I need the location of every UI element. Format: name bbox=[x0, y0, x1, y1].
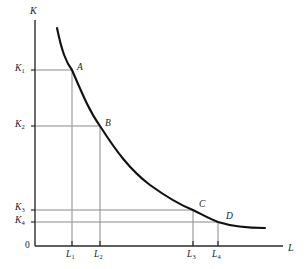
isoquant-curve bbox=[57, 28, 265, 228]
origin-label: 0 bbox=[25, 241, 30, 251]
point-label-d: D bbox=[226, 212, 233, 222]
guide-lines bbox=[35, 70, 218, 246]
point-label-b: B bbox=[105, 119, 111, 129]
chart-canvas bbox=[0, 0, 306, 269]
y-tick-label-k3: K3 bbox=[15, 203, 25, 213]
y-tick-label-k2: K2 bbox=[15, 120, 25, 130]
x-tick-label-l2: L2 bbox=[94, 250, 103, 260]
x-tick-label-l1: L1 bbox=[66, 250, 75, 260]
y-tick-label-k4: K4 bbox=[15, 216, 25, 226]
isoquant-figure: K L 0 K1 K2 K3 K4 L1 L2 L3 L4 A B C D bbox=[0, 0, 306, 269]
point-label-a: A bbox=[77, 63, 83, 73]
x-tick-label-l3: L3 bbox=[187, 250, 196, 260]
y-axis-label: K bbox=[30, 6, 37, 16]
x-axis-label: L bbox=[288, 243, 294, 253]
x-tick-label-l4: L4 bbox=[212, 250, 221, 260]
tick-marks bbox=[31, 70, 218, 246]
point-label-c: C bbox=[199, 200, 205, 210]
y-tick-label-k1: K1 bbox=[15, 64, 25, 74]
